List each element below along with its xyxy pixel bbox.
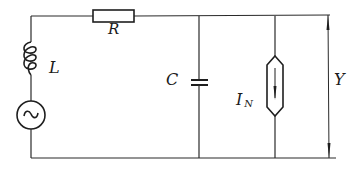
resistor-label: R	[108, 22, 119, 37]
top-wire-right	[134, 15, 330, 16]
ac-source-icon	[17, 101, 45, 129]
current-source-label: IN	[236, 92, 253, 109]
current-source-label-subscript: N	[244, 98, 253, 109]
current-source-label-main: I	[236, 90, 242, 109]
current-source-symbol	[267, 56, 283, 116]
inductor-label: L	[49, 60, 60, 76]
arrow-up-icon	[327, 15, 330, 30]
current-arrow-icon	[274, 86, 277, 100]
admittance-label: Y	[334, 72, 345, 88]
capacitor-symbol	[191, 80, 208, 85]
admittance-dimension-arrow	[327, 15, 331, 158]
arrow-down-icon	[328, 143, 331, 158]
capacitor-label: C	[166, 72, 178, 88]
inductor-coil	[24, 42, 36, 75]
